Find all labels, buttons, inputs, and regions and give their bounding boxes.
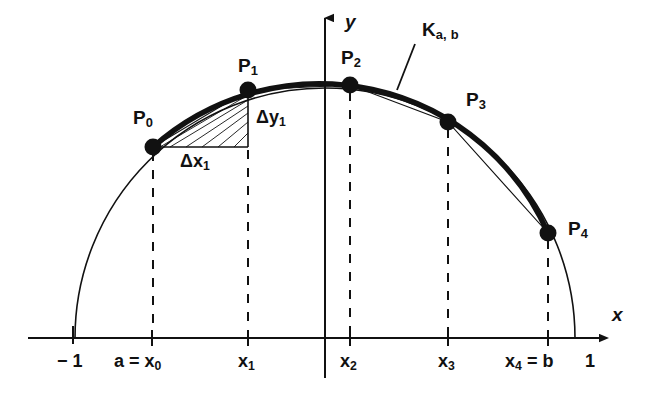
- tick-label-x3: x3: [438, 352, 455, 372]
- point-label-P2-sub: 2: [354, 55, 361, 70]
- point-label-P1-base: P: [238, 55, 251, 76]
- curve-label-sub: a, b: [436, 27, 459, 42]
- y-axis-label: y: [345, 12, 356, 31]
- point-label-P1-sub: 1: [251, 63, 258, 78]
- point-dot-P0: [145, 139, 162, 156]
- x-axis-label: x: [612, 305, 623, 324]
- tick-label-x2-base: x: [340, 351, 350, 371]
- tick-label-x0: a = x0: [114, 352, 162, 372]
- math-figure: [0, 0, 656, 402]
- tick-label-one: 1: [585, 352, 595, 370]
- point-label-P0: P0: [133, 108, 153, 130]
- point-label-P1: P1: [238, 56, 258, 78]
- point-label-P4: P4: [568, 219, 588, 241]
- point-dot-P4: [540, 225, 557, 242]
- tick-label-x2-sub: 2: [350, 359, 357, 373]
- tick-label-x4-sub: 4: [515, 359, 522, 373]
- triangle-hatching: [160, 95, 248, 147]
- delta-x1-label: Δx1: [180, 152, 210, 172]
- point-label-P4-base: P: [568, 218, 581, 239]
- point-label-P0-sub: 0: [146, 115, 153, 130]
- tick-label-x0-base: a = x: [114, 351, 155, 371]
- point-dot-P3: [440, 114, 457, 131]
- point-label-P3-base: P: [466, 89, 479, 110]
- point-label-P2-base: P: [341, 47, 354, 68]
- point-label-P3: P3: [466, 90, 486, 112]
- tick-label-one-base: 1: [585, 351, 595, 371]
- drop-lines: [153, 92, 548, 332]
- point-dot-P2: [342, 77, 359, 94]
- x-axis-ticks: [73, 326, 548, 346]
- curve-label-leader: [397, 44, 415, 90]
- tick-label-x1-sub: 1: [248, 359, 255, 373]
- point-label-P4-sub: 4: [581, 226, 588, 241]
- curve-label-base: K: [422, 19, 436, 40]
- point-label-P2: P2: [341, 48, 361, 70]
- tick-label-x1: x1: [238, 352, 255, 372]
- point-label-P3-sub: 3: [479, 97, 486, 112]
- delta-y1-sub: 1: [279, 115, 286, 129]
- tick-label-minus-one-base: − 1: [57, 351, 83, 371]
- tick-label-x4-base: x: [505, 351, 515, 371]
- curve-label-k-ab: Ka, b: [422, 20, 459, 42]
- delta-y1-base: Δy: [256, 107, 279, 127]
- delta-y1-label: Δy1: [256, 108, 286, 128]
- tick-label-x1-base: x: [238, 351, 248, 371]
- tick-label-minus-one: − 1: [57, 352, 83, 370]
- point-label-P0-base: P: [133, 107, 146, 128]
- delta-x1-sub: 1: [203, 159, 210, 173]
- delta-x1-base: Δx: [180, 151, 203, 171]
- tick-label-x3-sub: 3: [448, 359, 455, 373]
- tick-label-x0-sub: 0: [155, 359, 162, 373]
- tick-label-x4-suffix: = b: [522, 351, 554, 371]
- tick-label-x2: x2: [340, 352, 357, 372]
- point-dot-P1: [240, 82, 257, 99]
- arc-k-ab: [153, 84, 548, 233]
- tick-label-x3-base: x: [438, 351, 448, 371]
- tick-label-x4: x4 = b: [505, 352, 554, 372]
